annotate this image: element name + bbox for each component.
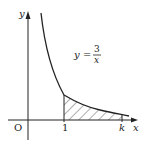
function-numerator: 3: [94, 44, 100, 54]
curve-y-3-over-x: [41, 13, 129, 116]
tick-label-k: k: [119, 122, 125, 133]
function-eq: =: [83, 49, 91, 60]
function-denominator: x: [94, 55, 99, 65]
y-axis-label: y: [18, 8, 25, 19]
function-label: y = 3 x: [73, 44, 101, 65]
y-axis-arrow-icon: [26, 11, 31, 19]
x-axis-label: x: [133, 122, 139, 133]
function-lhs: y: [73, 49, 80, 60]
shaded-region: [64, 95, 122, 120]
tick-label-1: 1: [62, 122, 68, 133]
function-graph: y x O 1 k y = 3 x: [0, 0, 144, 150]
origin-label: O: [14, 122, 22, 133]
